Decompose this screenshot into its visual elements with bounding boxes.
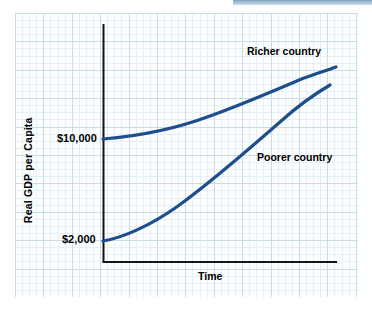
y-tick-label-low: $2,000 <box>62 234 96 245</box>
poorer-country-annotation: Poorer country <box>257 152 332 163</box>
y-axis-title: Real GDP per Capita <box>23 115 34 225</box>
poorer-country-curve <box>103 85 330 241</box>
richer-country-annotation: Richer country <box>247 46 321 57</box>
chart-figure: $10,000 $2,000 Real GDP per Capita Time … <box>0 0 372 314</box>
y-tick-label-high: $10,000 <box>57 133 97 144</box>
x-axis-title: Time <box>198 271 222 282</box>
